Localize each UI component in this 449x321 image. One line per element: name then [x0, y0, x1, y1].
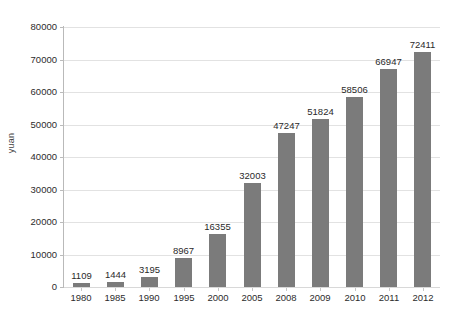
x-tick-label: 2010	[344, 293, 365, 303]
bar[interactable]: 72411	[414, 52, 431, 287]
y-tick-label: 80000	[31, 22, 57, 32]
bar-value-label: 1109	[71, 271, 91, 281]
x-tick-mark	[320, 288, 321, 291]
y-tick-label: 0	[52, 282, 57, 292]
bar-value-label: 16355	[204, 222, 230, 232]
x-tick-label: 2012	[412, 293, 433, 303]
x-tick-label: 1995	[173, 293, 194, 303]
y-tick-label: 70000	[31, 55, 57, 65]
x-tick-label: 2005	[241, 293, 262, 303]
y-tick-mark	[60, 125, 64, 126]
bar-value-label: 66947	[375, 57, 401, 67]
bar-value-label: 32003	[239, 171, 265, 181]
x-tick-label: 1980	[70, 293, 91, 303]
y-tick-mark	[60, 157, 64, 158]
y-tick-mark	[60, 60, 64, 61]
x-tick-mark	[286, 288, 287, 291]
bar[interactable]: 3195	[141, 277, 158, 287]
y-tick-label: 10000	[31, 250, 57, 260]
y-tick-label: 60000	[31, 87, 57, 97]
bar-value-label: 1444	[105, 270, 126, 280]
x-tick-mark	[389, 288, 390, 291]
y-tick-label: 50000	[31, 120, 57, 130]
y-tick-label: 30000	[31, 185, 57, 195]
x-tick-label: 1985	[104, 293, 125, 303]
bar-value-label: 8967	[173, 246, 194, 256]
bar[interactable]: 66947	[380, 69, 397, 287]
y-axis-title: yuan	[6, 118, 16, 168]
bar-chart: yuan 01000020000300004000050000600007000…	[0, 0, 449, 321]
x-tick-mark	[184, 288, 185, 291]
bar[interactable]: 16355	[209, 234, 226, 287]
gridline: 80000	[64, 27, 440, 28]
bar[interactable]: 51824	[312, 119, 329, 287]
x-tick-mark	[355, 288, 356, 291]
y-tick-mark	[60, 222, 64, 223]
x-tick-label: 2011	[379, 293, 399, 303]
y-tick-mark	[60, 190, 64, 191]
y-tick-mark	[60, 255, 64, 256]
bar[interactable]: 8967	[175, 258, 192, 287]
bar-value-label: 47247	[273, 121, 299, 131]
bar[interactable]: 1444	[107, 282, 124, 287]
x-tick-mark	[218, 288, 219, 291]
y-tick-mark	[60, 27, 64, 28]
y-tick-mark	[60, 92, 64, 93]
x-tick-label: 1990	[138, 293, 159, 303]
bar-value-label: 72411	[410, 40, 436, 50]
x-tick-label: 2008	[275, 293, 296, 303]
x-tick-mark	[252, 288, 253, 291]
bar[interactable]: 32003	[244, 183, 261, 287]
plot-area: 0100002000030000400005000060000700008000…	[64, 27, 440, 287]
x-tick-mark	[81, 288, 82, 291]
x-tick-mark	[115, 288, 116, 291]
bar-value-label: 58506	[341, 85, 367, 95]
y-tick-label: 40000	[31, 152, 57, 162]
bar[interactable]: 47247	[278, 133, 295, 287]
x-tick-mark	[423, 288, 424, 291]
x-tick-label: 2009	[309, 293, 330, 303]
x-tick-mark	[149, 288, 150, 291]
bar-value-label: 51824	[307, 107, 333, 117]
x-tick-label: 2000	[207, 293, 228, 303]
y-tick-label: 20000	[31, 217, 57, 227]
bar[interactable]: 58506	[346, 97, 363, 287]
y-tick-mark	[60, 287, 64, 288]
bar[interactable]: 1109	[73, 283, 90, 287]
bar-value-label: 3195	[139, 265, 160, 275]
